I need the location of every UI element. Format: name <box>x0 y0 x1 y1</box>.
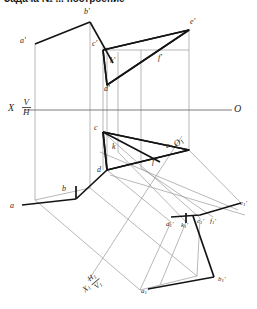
horizontal-projection-heavy-lines <box>22 132 189 205</box>
axis-label-o: O <box>234 104 241 114</box>
point-label-d-prime: d' <box>104 85 110 93</box>
point-label-f: f <box>152 158 154 166</box>
axis-fraction-v-h: V H <box>22 98 31 118</box>
drawing-canvas: Задача № ... построение <box>0 0 257 309</box>
point-label-c1-prime: c1' <box>197 218 204 226</box>
point-label-b1-prime: b1' <box>218 276 225 284</box>
axis-fraction-denominator-h: H <box>22 108 31 117</box>
point-label-e: e <box>166 142 170 150</box>
point-label-d: d <box>97 166 101 174</box>
point-label-a-prime: a' <box>20 37 26 45</box>
point-label-c-prime: c' <box>92 40 97 48</box>
point-label-e-prime: e' <box>190 18 195 26</box>
auxiliary-projection-heavy-lines <box>148 203 241 289</box>
point-label-f-prime: f' <box>158 54 162 62</box>
point-label-b: b <box>62 185 66 193</box>
point-label-a1-prime: a1' <box>141 288 148 296</box>
technical-drawing-svg <box>0 0 257 309</box>
point-label-e1-prime: e1' <box>240 200 247 208</box>
point-label-a: a <box>10 202 14 210</box>
point-label-b-prime: b' <box>84 8 90 16</box>
point-label-k1-prime: k1' <box>181 222 188 230</box>
point-label-d1-prime: d1' <box>166 221 173 229</box>
axis-label-x: X <box>8 103 14 113</box>
point-label-k-prime: k' <box>110 57 115 65</box>
vertical-projection-heavy-lines <box>35 22 189 85</box>
point-label-k: k <box>112 143 116 151</box>
point-label-c: c <box>94 124 98 132</box>
point-label-f1-prime: f1' <box>210 218 216 226</box>
